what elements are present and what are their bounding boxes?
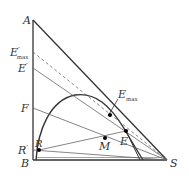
label-Emax-prime: E′max <box>9 45 29 60</box>
label-R: R <box>34 138 43 149</box>
point-Emax <box>108 113 112 117</box>
label-E-prime: E′ <box>17 61 28 75</box>
line-E-down <box>126 131 140 160</box>
label-R-prime: R′ <box>17 143 28 157</box>
label-M: M <box>98 140 111 153</box>
tie-line-R-E <box>39 131 126 150</box>
label-Emax: Emax <box>117 88 139 102</box>
binodal-curve <box>36 95 143 160</box>
edge-AS <box>33 20 167 160</box>
label-S: S <box>170 157 178 170</box>
label-F: F <box>20 102 29 115</box>
label-B: B <box>20 157 29 170</box>
point-E <box>124 129 128 133</box>
label-A: A <box>22 14 31 27</box>
extraction-triangle-diagram: A B S E′max E′ F R′ Emax E M R <box>0 0 189 181</box>
label-E: E <box>119 135 128 148</box>
